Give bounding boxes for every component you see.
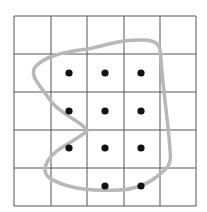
dot bbox=[137, 144, 144, 151]
dot bbox=[101, 182, 108, 189]
dot bbox=[101, 69, 108, 76]
dot bbox=[65, 144, 72, 151]
dot bbox=[65, 107, 72, 114]
dot bbox=[137, 182, 144, 189]
grid-diagram bbox=[0, 0, 207, 212]
dot bbox=[137, 69, 144, 76]
dot bbox=[65, 69, 72, 76]
dot bbox=[101, 144, 108, 151]
dot bbox=[137, 107, 144, 114]
dot bbox=[101, 107, 108, 114]
